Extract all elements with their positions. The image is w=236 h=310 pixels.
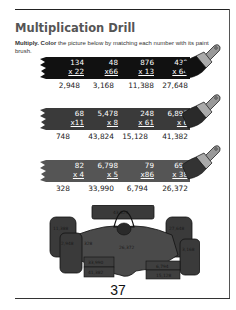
problem-row-2: 68x11 5,478x 8 248x 61 6,897x 6	[40, 108, 188, 130]
svg-text:328: 328	[84, 241, 93, 246]
problem: 876x 13	[120, 58, 154, 76]
svg-text:33,990: 33,990	[88, 260, 104, 265]
svg-text:15,128: 15,128	[156, 273, 172, 278]
page-number: 37	[0, 282, 236, 298]
answer: 328	[26, 184, 70, 193]
problem: 134x 22	[50, 58, 84, 76]
answer: 27,648	[144, 81, 188, 90]
answer: 748	[26, 132, 70, 141]
answer: 15,128	[104, 132, 148, 141]
svg-text:3,168: 3,168	[182, 247, 195, 252]
right-border	[229, 9, 230, 299]
problem-row-1: 134x 22 48x66 876x 13 432x 64	[40, 57, 188, 79]
problem: 5,478x 8	[84, 109, 118, 127]
answer: 6,794	[104, 184, 148, 193]
svg-text:2,948: 2,948	[61, 241, 74, 246]
paintbrush-icon-dark-gray	[180, 92, 222, 132]
problem: 68x11	[50, 109, 84, 127]
problem: 248x 61	[120, 109, 154, 127]
problem-row-3: 82x 4 6,798x 5 79x86 694x 38	[40, 160, 188, 182]
race-car-picture: 43,824 11,388 27,648 26,372 2,948 328 3,…	[48, 205, 200, 280]
svg-text:27,648: 27,648	[169, 226, 185, 231]
bottom-border	[15, 298, 230, 299]
problem: 79x86	[120, 161, 154, 179]
svg-text:26,372: 26,372	[119, 245, 135, 250]
top-border	[15, 9, 230, 10]
paintbrush-icon-gray	[180, 143, 222, 183]
instruction-color: Color	[41, 40, 57, 46]
problem: 48x66	[84, 58, 118, 76]
answer: 41,382	[144, 132, 188, 141]
page-title: Multiplication Drill	[15, 21, 135, 35]
answer: 3,168	[70, 81, 114, 90]
answer: 26,372	[144, 184, 188, 193]
problem: 6,798x 5	[84, 161, 118, 179]
svg-text:6,794: 6,794	[156, 264, 169, 269]
svg-text:11,388: 11,388	[53, 226, 69, 231]
paintbrush-icon-black	[180, 42, 222, 82]
svg-text:41,382: 41,382	[88, 270, 104, 275]
instruction-multiply: Multiply.	[15, 40, 39, 46]
problem: 82x 4	[50, 161, 84, 179]
